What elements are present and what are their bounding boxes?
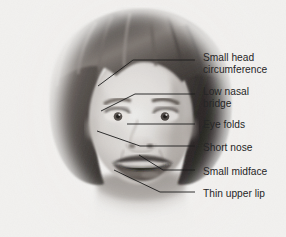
leader-thin-upper-lip [114,170,195,192]
label-low-nasal-bridge: Low nasal bridge [203,86,249,111]
label-short-nose: Short nose [203,142,252,154]
label-small-head-circumference: Small head circumference [203,52,267,77]
label-small-midface: Small midface [203,166,267,178]
label-eye-folds: Eye folds [203,119,245,131]
leader-low-nasal-bridge [101,94,195,111]
leader-short-nose [97,131,195,146]
label-thin-upper-lip: Thin upper lip [203,188,265,200]
leader-small-midface [139,155,195,170]
leader-small-head-circumference [98,60,195,86]
figure-canvas: Small head circumference Low nasal bridg… [0,0,286,237]
